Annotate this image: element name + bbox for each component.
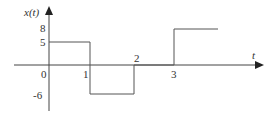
x-axis-arrow-icon [255,61,264,69]
x-axis-label: t [252,49,256,61]
y-axis-label: x(t) [23,6,40,19]
x-tick-3: 3 [171,68,177,80]
x-tick-1: 1 [83,68,89,80]
signal-plot: x(t) t 8 5 -6 0 1 2 3 [0,0,273,116]
y-axis-arrow-icon [45,6,53,15]
y-tick-5: 5 [40,36,46,48]
y-tick-minus6: -6 [33,89,43,101]
x-tick-0: 0 [41,68,47,80]
x-tick-2: 2 [134,52,140,64]
y-tick-8: 8 [40,22,46,34]
